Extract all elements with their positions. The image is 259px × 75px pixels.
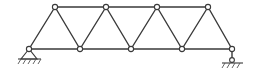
member-B1-T1 (29, 7, 55, 49)
member-B2-T2 (80, 7, 106, 49)
joint-T3 (154, 4, 159, 9)
member-T2-B3 (106, 7, 131, 49)
joint-B3 (128, 46, 133, 51)
joint-T2 (103, 4, 108, 9)
member-T4-B5 (208, 7, 232, 49)
joint-T4 (205, 4, 210, 9)
member-T1-B2 (55, 7, 80, 49)
truss-diagram (0, 0, 259, 75)
joint-B1 (26, 46, 31, 51)
joint-B5 (229, 46, 234, 51)
member-T3-B4 (157, 7, 182, 49)
joint-B4 (179, 46, 184, 51)
joint-B2 (77, 46, 82, 51)
member-B4-T4 (182, 7, 208, 49)
truss-members (29, 7, 232, 49)
joint-T1 (52, 4, 57, 9)
member-B3-T3 (131, 7, 157, 49)
